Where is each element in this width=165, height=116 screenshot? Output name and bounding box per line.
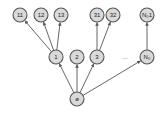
node-n32: 32 xyxy=(106,8,120,22)
node-label: 31 xyxy=(94,12,101,18)
node-label: ø xyxy=(75,96,79,102)
edge-n3-n32 xyxy=(99,22,110,50)
node-root: ø xyxy=(70,92,84,106)
node-label: N₀1 xyxy=(142,12,153,18)
edge-n1-n12 xyxy=(44,22,54,50)
edge-root-nN xyxy=(83,61,141,96)
node-label: 32 xyxy=(110,12,117,18)
node-nN1: N₀1 xyxy=(140,8,154,22)
node-label: 13 xyxy=(58,12,65,18)
node-n1: 1 xyxy=(49,50,63,64)
node-n13: 13 xyxy=(54,8,68,22)
node-n11: 11 xyxy=(13,8,27,22)
node-label: N₀ xyxy=(144,54,151,60)
edge-root-n3 xyxy=(80,64,94,93)
ellipsis-label: ... xyxy=(122,53,128,60)
node-n12: 12 xyxy=(34,8,48,22)
nodes: ø123N₀1112133132N₀1 xyxy=(13,8,154,106)
node-n3: 3 xyxy=(90,50,104,64)
edge-root-n1 xyxy=(59,64,74,93)
node-label: 11 xyxy=(17,12,24,18)
edge-n1-n11 xyxy=(25,21,52,52)
node-n31: 31 xyxy=(90,8,104,22)
edge-n1-n13 xyxy=(57,22,60,50)
edges xyxy=(25,21,147,96)
tree-diagram: ø123N₀1112133132N₀1 ... xyxy=(0,0,165,116)
node-label: 12 xyxy=(38,12,45,18)
node-n2: 2 xyxy=(70,50,84,64)
node-nN: N₀ xyxy=(140,50,154,64)
